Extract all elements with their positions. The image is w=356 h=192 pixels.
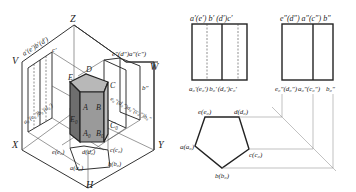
vertex-e: E (67, 73, 73, 82)
iso-w-bottom-label: e₀″(d₀″)a₀″(c₀″)b₀″ (109, 96, 153, 124)
drawing-canvas: Z V W X Y H a′(e′)b′(d′) c′ a₀′(e₀′)b₀′(… (0, 0, 356, 192)
prism-face-dark (70, 82, 80, 142)
vertex-b0: B₀ (96, 129, 104, 138)
vertex-e0: E₀ (69, 115, 78, 124)
proj-line (52, 86, 70, 96)
iso-v-top-label: a′(e′)b′(d′) (21, 35, 50, 58)
iso-w-top-label: e″(d″)a″(c″) (112, 50, 147, 58)
vertex-a: A (82, 103, 88, 112)
side-view (282, 24, 333, 80)
miter-line (272, 107, 336, 171)
top-c-label: c(c₀) (249, 151, 263, 159)
iso-h-c-label: c(c₀) (110, 146, 122, 154)
side-top-labels: e″(d″)a″(c″)b″ (280, 14, 331, 23)
axis-label-z: Z (70, 13, 76, 24)
vertex-a0: A₀ (82, 129, 91, 138)
top-view (195, 94, 336, 171)
top-view-pentagon (195, 117, 249, 168)
side-bottom-labels: e₀″(d₀″)a₀″(c₀″)b₀″ (275, 85, 335, 93)
front-view-rect (192, 24, 247, 80)
front-bottom-labels: a₀′(e₀′)b₀′(d₀′)c₀′ (189, 85, 237, 93)
top-a-label: a(a₀) (180, 143, 195, 151)
w-proj-top-link (104, 58, 120, 60)
iso-w-b-label: b″ (142, 84, 149, 92)
top-d-label: d(d₀) (234, 108, 249, 116)
front-view (192, 24, 247, 80)
iso-h-d-label: d(d₀) (82, 148, 95, 156)
plane-label-h: H (85, 179, 94, 190)
top-b-label: b(b₀) (215, 172, 230, 180)
plane-label-w: W (150, 61, 160, 72)
prism-face-right (104, 82, 108, 142)
iso-h-a-label: a(a₀) (70, 164, 83, 172)
front-top-labels: a′(e′)b′(d′)c′ (190, 14, 233, 23)
iso-v-c-label: c′ (52, 46, 57, 54)
iso-h-b-label: b(b₀) (108, 160, 121, 168)
axis-label-y: Y (158, 139, 165, 150)
vertex-c: C (110, 81, 116, 90)
vertex-b: B (96, 103, 101, 112)
iso-v-bottom-label: a₀′(e₀′)b₀′(d₀′) (22, 102, 54, 126)
side-view-rect (282, 24, 333, 80)
top-e-label: e(e₀) (198, 108, 212, 116)
iso-h-e-label: e(e₀) (52, 148, 64, 156)
plane-label-v: V (12, 55, 20, 66)
vertex-d: D (85, 65, 92, 74)
vertex-c0: C₀ (110, 121, 118, 130)
axis-label-x: X (11, 139, 19, 150)
